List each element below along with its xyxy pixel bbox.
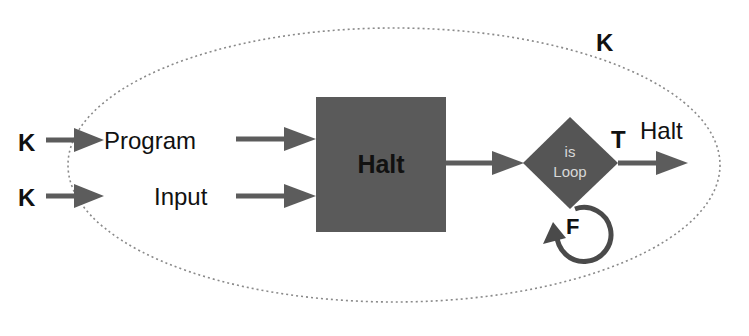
false-label: F	[566, 214, 579, 239]
halt-box-label: Halt	[357, 150, 405, 178]
is-loop-decision: is Loop	[523, 117, 618, 209]
halting-problem-diagram: K K K Program Input Halt is	[0, 0, 749, 336]
decision-line2: Loop	[553, 163, 586, 180]
halt-to-decision-arrow	[446, 151, 524, 175]
program-source-k: K	[18, 129, 36, 156]
input-label: Input	[154, 183, 208, 210]
input-source-k: K	[18, 184, 36, 211]
input-to-halt-arrow	[236, 184, 316, 208]
outer-k-label: K	[596, 29, 614, 56]
halt-box: Halt	[316, 97, 446, 232]
program-to-halt-arrow	[236, 127, 316, 151]
true-branch-arrow	[618, 151, 688, 175]
k-to-program-arrow	[46, 128, 104, 152]
decision-line1: is	[565, 143, 576, 160]
true-target-halt-label: Halt	[640, 117, 683, 144]
k-to-input-arrow	[46, 184, 104, 208]
program-label: Program	[104, 127, 196, 154]
true-label: T	[611, 126, 626, 153]
